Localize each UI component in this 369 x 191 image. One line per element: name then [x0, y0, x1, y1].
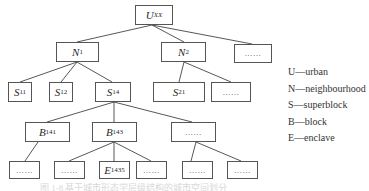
node-subscript: 143: [113, 128, 124, 136]
legend-item-enclave: E—enclave: [288, 130, 366, 147]
node-label: B: [39, 126, 46, 138]
ellipsis-label: ……: [234, 166, 251, 175]
node-superblock-12: S12: [49, 82, 73, 102]
node-more-level4-c: ……: [136, 161, 167, 179]
ellipsis-label: ……: [61, 166, 78, 175]
node-label: N: [178, 46, 185, 58]
node-label: N: [72, 46, 79, 58]
node-subscript: 14: [112, 88, 119, 96]
node-subscript: 2: [185, 48, 189, 56]
node-more-level1: ……: [234, 44, 272, 63]
ellipsis-label: ……: [143, 166, 160, 175]
ellipsis-label: ……: [189, 166, 206, 175]
node-superblock-11: S11: [8, 82, 32, 102]
node-more-level4-a: ……: [9, 161, 40, 179]
node-superblock-14: S14: [95, 82, 131, 102]
node-label: U: [146, 9, 154, 21]
node-subscript: 1: [79, 48, 83, 56]
node-more-level4-e: ……: [227, 161, 258, 179]
node-more-level3: ……: [171, 122, 216, 142]
ellipsis-label: ……: [223, 88, 240, 97]
figure-caption: 图 1-8 基于城市形态学层级结构的城市空间划分: [40, 181, 228, 191]
node-label: B: [106, 126, 113, 138]
node-more-level4-d: ……: [182, 161, 213, 179]
node-block-141: B141: [25, 122, 70, 142]
ellipsis-label: ……: [16, 166, 33, 175]
node-subscript: 21: [178, 88, 185, 96]
node-enclave-1435: E1435: [99, 161, 130, 179]
node-subscript: 11: [19, 88, 26, 96]
hierarchy-diagram: UXX N1 N2 …… S11 S12 S14 S21 …… B141 B14…: [0, 0, 369, 191]
node-subscript: 1435: [111, 166, 125, 174]
legend-item-neighbourhood: N—neighbourhood: [288, 81, 366, 98]
legend: U—urban N—neighbourhood S—superblock B—b…: [288, 64, 366, 147]
node-label: E: [104, 164, 111, 176]
ellipsis-label: ……: [245, 49, 262, 58]
node-subscript: 12: [60, 88, 67, 96]
node-block-143: B143: [92, 122, 137, 142]
node-urban: UXX: [135, 5, 173, 25]
node-subscript: XX: [154, 11, 163, 19]
node-neighbourhood-2: N2: [161, 42, 206, 62]
node-neighbourhood-1: N1: [56, 42, 99, 62]
legend-item-urban: U—urban: [288, 64, 366, 81]
legend-item-superblock: S—superblock: [288, 97, 366, 114]
node-more-level2: ……: [211, 82, 251, 102]
node-superblock-21: S21: [153, 82, 205, 102]
node-more-level4-b: ……: [54, 161, 85, 179]
legend-item-block: B—block: [288, 114, 366, 131]
ellipsis-label: ……: [185, 128, 202, 137]
node-subscript: 141: [46, 128, 57, 136]
